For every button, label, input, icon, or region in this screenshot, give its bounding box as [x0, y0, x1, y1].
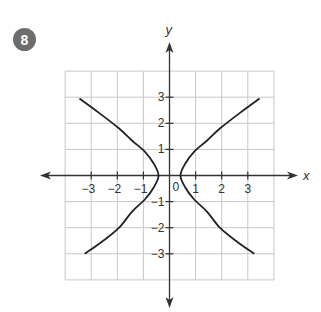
hyperbola-graph: x y 0 −3−2−1123321−1−2−3	[0, 0, 321, 312]
y-tick-label: 3	[158, 90, 165, 104]
y-tick-label: 1	[158, 142, 165, 156]
origin-label: 0	[173, 180, 180, 194]
x-tick-label: −3	[82, 182, 96, 196]
y-tick-label: 2	[158, 116, 165, 130]
x-tick-label: −1	[134, 182, 148, 196]
y-tick-label: −2	[151, 221, 165, 235]
y-tick-label: −1	[151, 195, 165, 209]
x-axis-label: x	[302, 168, 310, 183]
x-tick-label: −2	[108, 182, 122, 196]
x-tick-label: 3	[244, 182, 251, 196]
x-tick-label: 2	[218, 182, 225, 196]
y-tick-label: −3	[151, 247, 165, 261]
x-tick-label: 1	[192, 182, 199, 196]
y-axis-label: y	[165, 22, 174, 37]
